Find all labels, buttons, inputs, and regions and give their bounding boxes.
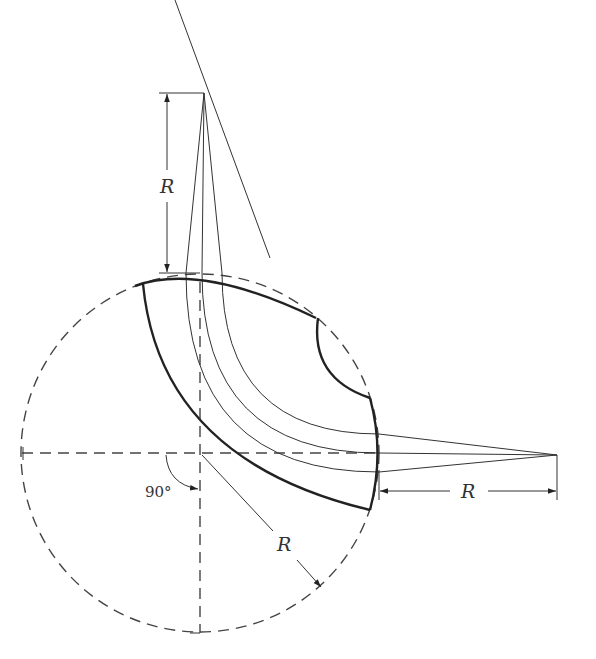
apex-line-left <box>186 93 204 273</box>
diag-radius-arrow <box>297 560 321 587</box>
diag-radius-line <box>202 455 273 531</box>
pipe-bend-diagram: R R R 90° <box>0 0 596 659</box>
outline-notch-arc <box>317 318 370 398</box>
diagonal-radius-label: R <box>276 533 291 555</box>
bend-curve-right <box>222 273 379 434</box>
right-apex-line-bottom <box>379 455 557 472</box>
right-apex-line-center <box>379 453 557 455</box>
tangent-line <box>175 0 270 258</box>
angle-label: 90° <box>145 483 172 501</box>
outline-left-arc <box>143 284 370 510</box>
right-apex-line-top <box>379 434 557 455</box>
apex-line-center <box>202 93 204 273</box>
bend-curve-center <box>202 273 379 453</box>
vertical-radius-label: R <box>159 175 174 197</box>
horizontal-radius-label: R <box>460 480 475 502</box>
outline-right-arc <box>370 398 378 510</box>
